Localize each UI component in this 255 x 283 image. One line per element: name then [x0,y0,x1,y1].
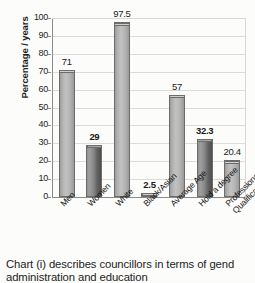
bar-value-label: 71 [50,57,84,67]
y-tick-label: 10 [26,174,48,183]
y-tick-label: 30 [26,138,48,147]
bar-slot: 2.5 [136,18,164,197]
bar-top-cap [224,161,240,164]
bar-value-label: 57 [160,82,194,92]
y-tick-mark [48,125,51,126]
y-tick-label: 90 [26,31,48,40]
y-tick-label: 50 [26,103,48,112]
bar-chart-figure: Percentage / years 100908070605040302010… [0,0,255,250]
y-tick-mark [48,161,51,162]
y-tick-mark [48,108,51,109]
x-axis-labels: MenWomenWhiteBlack/AsianAverage AgeHold … [52,199,245,251]
bar-top-cap [114,23,130,26]
bar-value-label: 20.4 [215,147,249,157]
y-tick-label: 0 [26,192,48,201]
bar-top-cap [197,139,213,142]
chart-caption: Chart (i) describes councillors in terms… [6,258,255,283]
bar-slot: 57 [163,18,191,197]
y-tick-mark [48,36,51,37]
bar[interactable] [59,70,75,197]
bar-slot: 29 [81,18,109,197]
caption-line-1: Chart (i) describes councillors in terms… [6,258,234,270]
caption-line-2: administration and education [6,271,255,283]
y-tick-mark [48,179,51,180]
plot-area: 712997.52.55732.320.4 [52,18,246,198]
y-tick-label: 20 [26,156,48,165]
bar-value-label: 32.3 [188,126,222,136]
bar-slot: 32.3 [191,18,219,197]
bar[interactable] [114,22,130,197]
bar-slot: 97.5 [108,18,136,197]
bar-value-label: 29 [77,132,111,142]
bar-top-cap [87,145,103,148]
bar-slot: 71 [53,18,81,197]
y-tick-label: 80 [26,49,48,58]
bar-series: 712997.52.55732.320.4 [53,18,246,197]
y-tick-label: 60 [26,85,48,94]
bar-top-cap [169,95,185,98]
y-tick-mark [48,197,51,198]
chart-page: Percentage / years 100908070605040302010… [0,0,255,283]
y-axis-ticks: 1009080706050403020100 [24,0,48,200]
y-tick-mark [48,90,51,91]
y-tick-mark [48,54,51,55]
y-tick-mark [48,18,51,19]
y-tick-label: 70 [26,67,48,76]
y-tick-mark [48,72,51,73]
y-tick-label: 100 [26,13,48,22]
bar-top-cap [59,70,75,73]
y-tick-label: 40 [26,120,48,129]
y-tick-mark [48,143,51,144]
bar-value-label: 97.5 [105,9,139,19]
